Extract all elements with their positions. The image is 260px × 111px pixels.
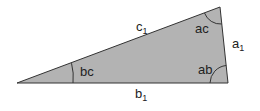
side-label-c: c1	[136, 19, 148, 36]
side-label-a: a1	[232, 36, 244, 53]
angle-label-bc: bc	[80, 64, 94, 79]
triangle-diagram: c1 a1 b1 ac bc ab	[0, 0, 260, 111]
side-label-b: b1	[135, 86, 147, 103]
triangle-shape	[17, 7, 228, 83]
angle-label-ab: ab	[198, 62, 212, 77]
angle-label-ac: ac	[195, 21, 209, 36]
